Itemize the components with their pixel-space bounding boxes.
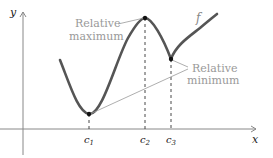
rel-max-label-line1: Relative — [75, 17, 121, 30]
point-c1 — [87, 112, 91, 116]
point-c2 — [143, 16, 147, 20]
rel-min-label-line2: minimum — [187, 74, 240, 87]
c1-label: c1 — [84, 134, 94, 147]
rel-max-label-line2: maximum — [69, 30, 124, 43]
leader-min-c3 — [172, 60, 188, 67]
x-axis-label: x — [252, 133, 259, 146]
c2-label: c2 — [140, 134, 151, 147]
function-label: f — [195, 11, 203, 25]
extrema-diagram: y x f Relative maximum Relative minimum … — [0, 0, 273, 158]
c3-label: c3 — [166, 134, 177, 147]
c-labels: c1 c2 c3 — [84, 134, 177, 147]
point-c3 — [169, 57, 173, 61]
leader-min-c1 — [90, 69, 188, 114]
y-axis-label: y — [9, 6, 17, 19]
